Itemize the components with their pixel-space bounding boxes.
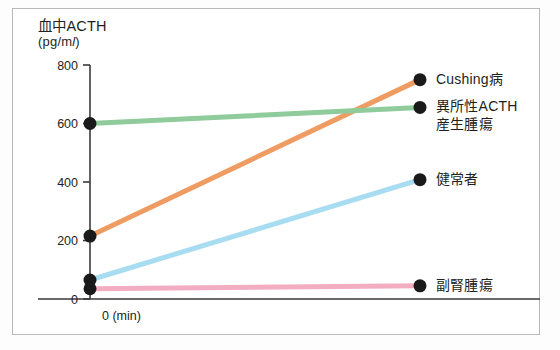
x-tick-labels: 0 (min): [102, 309, 141, 323]
svg-text:400: 400: [57, 176, 78, 190]
svg-text:0: 0: [71, 293, 78, 307]
svg-text:600: 600: [57, 117, 78, 131]
series-markers: [84, 73, 427, 295]
legend-label-healthy: 健常者: [436, 170, 479, 188]
svg-text:800: 800: [57, 59, 78, 73]
svg-text:200: 200: [57, 234, 78, 248]
series-lines: [90, 80, 420, 289]
legend-label-adrenal-tumor: 副腎腫瘍: [436, 276, 493, 294]
chart-figure: 血中ACTH (pg/ml) 0200400600800 0 (min) Cus…: [0, 0, 560, 350]
legend-label-cushing: Cushing病: [436, 70, 503, 88]
y-tick-labels: 0200400600800: [57, 59, 78, 307]
legend-label-ectopic-acth-tumor: 異所性ACTH 産生腫瘍: [436, 97, 518, 133]
svg-text:0 (min): 0 (min): [102, 309, 141, 323]
